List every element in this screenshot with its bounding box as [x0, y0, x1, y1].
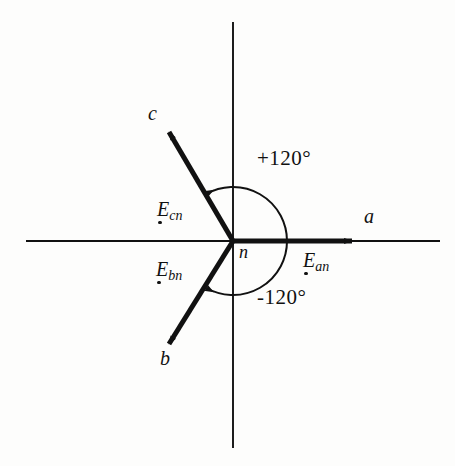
phasor-dot-ean: [304, 272, 308, 276]
phasor-base-ean: E: [303, 250, 315, 270]
phasor-subscript-ean: an: [315, 259, 329, 274]
phasor-subscript-ebn: bn: [168, 268, 182, 283]
terminal-label-a: a: [364, 206, 374, 226]
terminal-label-b: b: [160, 348, 170, 368]
phasor-dot-ecn: [158, 221, 162, 225]
vector-ebn: [169, 241, 233, 344]
phasor-diagram-figure: a b c n Ean Ebn Ecn +120° -120°: [0, 0, 455, 466]
phasor-base-ebn: E: [156, 259, 168, 279]
phasor-base-ecn: E: [157, 199, 169, 219]
phasor-label-ean: Ean: [303, 250, 329, 270]
angle-label-minus-120: -120°: [257, 287, 306, 308]
phasor-subscript-ecn: cn: [169, 208, 182, 223]
phasor-diagram-canvas: [0, 0, 455, 466]
angle-label-plus-120: +120°: [257, 148, 311, 169]
phasor-dot-ebn: [157, 281, 161, 285]
vector-ecn: [169, 132, 233, 241]
phasor-label-ecn: Ecn: [157, 199, 182, 219]
phasor-label-ebn: Ebn: [156, 259, 182, 279]
origin-label-n: n: [239, 243, 248, 261]
terminal-label-c: c: [148, 103, 157, 123]
axis-lines: [26, 22, 440, 448]
